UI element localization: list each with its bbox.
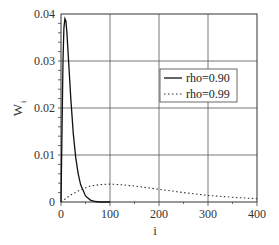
y-tick-0.01: 0.01 [34,148,55,162]
legend-label-rho-099: rho=0.99 [186,87,230,101]
x-tick-200: 200 [150,207,168,221]
grid [61,14,257,202]
y-axis-label: W i [10,100,28,116]
x-tick-100: 100 [101,207,119,221]
x-axis-label: i [153,223,157,238]
y-tick-0.03: 0.03 [34,54,55,68]
x-tick-300: 300 [199,207,217,221]
chart-canvas: 0 0.01 0.02 0.03 0.04 0 100 200 300 400 … [0,0,279,245]
series-rho-090-line [61,19,110,202]
y-tick-0.04: 0.04 [34,7,55,21]
x-tick-400: 400 [248,207,266,221]
x-tick-0: 0 [58,207,64,221]
legend: rho=0.90 rho=0.99 [160,69,237,102]
y-tick-0: 0 [49,195,55,209]
x-minor-ticks [61,202,257,206]
legend-label-rho-090: rho=0.90 [186,71,230,85]
svg-text:i: i [19,100,28,103]
svg-text:W: W [10,103,25,116]
y-tick-0.02: 0.02 [34,101,55,115]
